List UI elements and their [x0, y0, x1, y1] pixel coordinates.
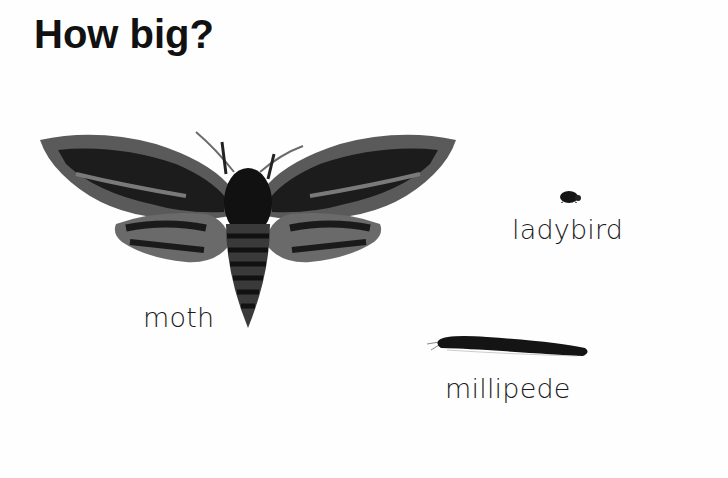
- millipede-image: [427, 332, 591, 358]
- page-title: How big?: [34, 10, 214, 58]
- millipede-label: millipede: [445, 373, 571, 405]
- moth-image: [36, 124, 460, 334]
- ladybird-label: ladybird: [512, 214, 623, 246]
- ladybird-image: [557, 189, 583, 203]
- book-page: How big? mo: [0, 0, 728, 478]
- moth-label: moth: [143, 302, 214, 334]
